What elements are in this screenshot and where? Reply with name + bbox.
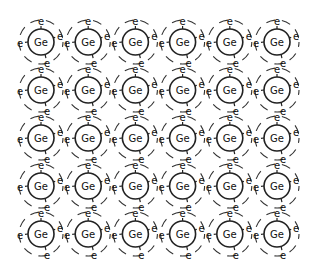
- electron-label: e: [199, 127, 205, 138]
- atom-label: Ge: [34, 133, 48, 144]
- electron-label: e: [138, 250, 144, 261]
- electron-label: e: [233, 202, 239, 213]
- electron-label: e: [233, 250, 239, 261]
- ge-atom: eeeeGe: [111, 16, 157, 69]
- electron-label: e: [85, 64, 91, 75]
- electron-label: e: [180, 64, 186, 75]
- electron-label: e: [199, 79, 205, 90]
- atom-label: Ge: [81, 37, 95, 48]
- ge-atom: eeeeGe: [253, 160, 299, 213]
- electron-label: e: [159, 38, 165, 49]
- ge-atom: eeeeGe: [206, 160, 252, 213]
- electron-label: e: [246, 79, 252, 90]
- electron-label: e: [227, 64, 233, 75]
- ge-atom: eeeeGe: [17, 16, 63, 69]
- ge-atom: eeeeGe: [253, 112, 299, 165]
- ge-atom: eeeeGe: [111, 112, 157, 165]
- atom-label: Ge: [176, 181, 190, 192]
- electron-label: e: [64, 182, 70, 193]
- ge-atom: eeeeGe: [206, 208, 252, 261]
- electron-label: e: [111, 182, 117, 193]
- electron-label: e: [151, 79, 157, 90]
- atom-label: Ge: [270, 133, 284, 144]
- electron-label: e: [206, 38, 212, 49]
- ge-atom: eeeeGe: [17, 160, 63, 213]
- ge-atom: eeeeGe: [206, 112, 252, 165]
- electron-label: e: [253, 38, 259, 49]
- atom-label: Ge: [34, 181, 48, 192]
- electron-label: e: [138, 202, 144, 213]
- electron-label: e: [85, 16, 91, 27]
- electron-label: e: [280, 106, 286, 117]
- ge-atom: eeeeGe: [159, 16, 205, 69]
- electron-label: e: [274, 160, 280, 171]
- electron-label: e: [159, 230, 165, 241]
- atom-label: Ge: [34, 37, 48, 48]
- electron-label: e: [132, 208, 138, 219]
- electron-label: e: [280, 154, 286, 165]
- electron-label: e: [38, 64, 44, 75]
- ge-atom: eeeeGe: [206, 64, 252, 117]
- atom-label: Ge: [128, 133, 142, 144]
- electron-label: e: [57, 127, 63, 138]
- electron-label: e: [151, 127, 157, 138]
- electron-label: e: [17, 38, 23, 49]
- electron-label: e: [64, 230, 70, 241]
- electron-label: e: [38, 208, 44, 219]
- electron-label: e: [227, 208, 233, 219]
- atom-label: Ge: [223, 85, 237, 96]
- electron-label: e: [104, 175, 110, 186]
- electron-label: e: [132, 160, 138, 171]
- electron-label: e: [151, 223, 157, 234]
- ge-atom: eeeeGe: [64, 16, 110, 69]
- electron-label: e: [293, 175, 299, 186]
- electron-label: e: [246, 223, 252, 234]
- ge-atom: eeeeGe: [159, 64, 205, 117]
- germanium-lattice-diagram: eeeeGeeeeeGeeeeeGeeeeeGeeeeeGeeeeeGeeeee…: [0, 0, 321, 279]
- electron-label: e: [38, 160, 44, 171]
- atom-label: Ge: [176, 229, 190, 240]
- atom-grid: eeeeGeeeeeGeeeeeGeeeeeGeeeeeGeeeeeGeeeee…: [17, 16, 299, 261]
- ge-atom: eeeeGe: [17, 112, 63, 165]
- ge-atom: eeeeGe: [159, 208, 205, 261]
- electron-label: e: [280, 58, 286, 69]
- electron-label: e: [180, 208, 186, 219]
- ge-atom: eeeeGe: [159, 112, 205, 165]
- electron-label: e: [17, 86, 23, 97]
- electron-label: e: [274, 16, 280, 27]
- electron-label: e: [38, 112, 44, 123]
- atom-label: Ge: [223, 37, 237, 48]
- electron-label: e: [104, 79, 110, 90]
- electron-label: e: [104, 127, 110, 138]
- electron-label: e: [253, 230, 259, 241]
- atom-label: Ge: [128, 229, 142, 240]
- electron-label: e: [111, 38, 117, 49]
- electron-label: e: [180, 112, 186, 123]
- electron-label: e: [159, 86, 165, 97]
- electron-label: e: [44, 58, 50, 69]
- electron-label: e: [186, 154, 192, 165]
- electron-label: e: [44, 202, 50, 213]
- electron-label: e: [186, 106, 192, 117]
- atom-label: Ge: [34, 85, 48, 96]
- electron-label: e: [206, 182, 212, 193]
- electron-label: e: [151, 175, 157, 186]
- electron-label: e: [57, 175, 63, 186]
- electron-label: e: [159, 134, 165, 145]
- atom-label: Ge: [270, 85, 284, 96]
- atom-label: Ge: [81, 85, 95, 96]
- ge-atom: eeeeGe: [64, 64, 110, 117]
- electron-label: e: [132, 64, 138, 75]
- electron-label: e: [44, 106, 50, 117]
- ge-atom: eeeeGe: [159, 160, 205, 213]
- electron-label: e: [138, 58, 144, 69]
- electron-label: e: [199, 31, 205, 42]
- electron-label: e: [104, 31, 110, 42]
- electron-label: e: [91, 154, 97, 165]
- electron-label: e: [64, 86, 70, 97]
- electron-label: e: [253, 86, 259, 97]
- electron-label: e: [293, 31, 299, 42]
- electron-label: e: [206, 230, 212, 241]
- electron-label: e: [186, 250, 192, 261]
- electron-label: e: [17, 134, 23, 145]
